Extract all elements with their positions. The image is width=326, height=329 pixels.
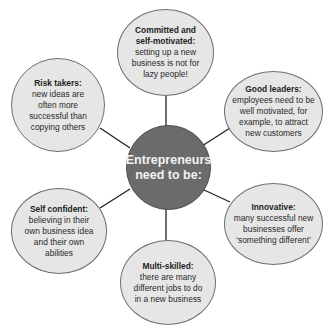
connector-risk (100, 128, 130, 148)
node-title: Risk takers: (34, 78, 82, 89)
node-body: many successful new businesses offer ‘so… (231, 213, 316, 246)
node-title: Committed and (135, 25, 196, 36)
connector-innovative (202, 189, 230, 202)
center-line-1: Entrepreneurs (126, 153, 211, 168)
node-good-leaders: Good leaders: employees need to be well … (224, 71, 323, 152)
node-title: Self confident: (30, 204, 88, 215)
node-title: self-motivated: (136, 36, 196, 47)
node-self-confident: Self confident: believing in their own b… (11, 188, 107, 274)
node-body: believing in their own business idea and… (18, 215, 100, 259)
connector-leaders (202, 128, 230, 146)
node-body: setting up a new business is not for laz… (124, 47, 207, 80)
node-body: new ideas are often more successful than… (18, 89, 98, 133)
node-title: Good leaders: (245, 84, 301, 95)
node-title: Innovative: (251, 202, 295, 213)
center-line-2: need to be: (126, 168, 211, 183)
node-risk-takers: Risk takers: new ideas are often more su… (11, 58, 105, 152)
node-innovative: Innovative: many successful new business… (224, 183, 323, 265)
connector-self (100, 189, 130, 208)
node-body: there are many different jobs to do in a… (127, 272, 209, 305)
node-multi-skilled: Multi-skilled: there are many different … (120, 240, 216, 325)
node-committed: Committed and self-motivated: setting up… (117, 9, 214, 96)
node-title: Multi-skilled: (142, 261, 193, 272)
node-body: employees need to be well motivated, for… (231, 95, 316, 139)
center-node: Entrepreneurs need to be: (126, 125, 211, 210)
